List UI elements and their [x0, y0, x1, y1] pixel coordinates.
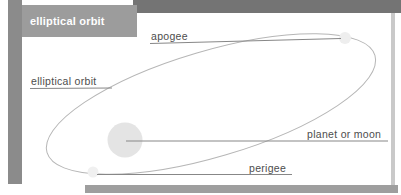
elliptical-orbit-label: elliptical orbit — [31, 75, 97, 87]
planet-or-moon-label: planet or moon — [307, 128, 381, 140]
planet-disc — [108, 123, 143, 158]
elliptical-orbit-leader-line — [30, 88, 112, 89]
perigee-point-dot — [88, 167, 99, 178]
orbit-graphic — [0, 0, 401, 195]
apogee-label: apogee — [151, 30, 188, 42]
orbit-diagram: elliptical orbit apogee elliptical orbit… — [0, 0, 401, 195]
perigee-label: perigee — [249, 162, 286, 174]
orbit-ellipse — [32, 5, 390, 195]
